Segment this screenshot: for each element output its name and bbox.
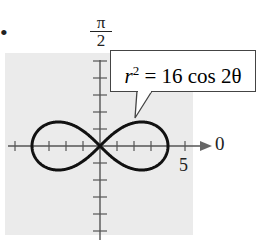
tick-label-5: 5 <box>179 155 188 176</box>
polar-plot <box>0 0 260 245</box>
equation-label: r2 = 16 cos 2θ <box>110 50 256 92</box>
angle-label-zero: 0 <box>215 133 225 155</box>
arrow-right-icon <box>200 141 212 151</box>
angle-label-pi-over-2: π 2 <box>90 14 112 49</box>
bullet: • <box>0 20 8 46</box>
